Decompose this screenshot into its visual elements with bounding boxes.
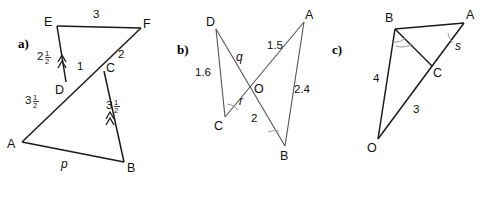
edge-label-a-ED: 2 1 2	[37, 49, 51, 66]
edge-label-a-AB: p	[60, 157, 68, 171]
edge-label-b-DC: 1.6	[195, 66, 211, 78]
vertex-label-c-B: B	[385, 11, 393, 25]
edge-label-c-CA: s	[455, 39, 461, 53]
edge-label-b-OA: 1.5	[267, 39, 283, 51]
vertex-label-a-E: E	[44, 15, 52, 29]
edge-label-c-OC: 3	[413, 103, 419, 115]
edge-label-a-CB: 3 1 2	[106, 98, 120, 115]
vertex-label-b-D: D	[206, 15, 215, 29]
edge-label-b-OB: 2	[251, 112, 257, 124]
vertex-label-a-F: F	[143, 17, 151, 31]
vertex-label-a-C: C	[106, 61, 115, 75]
vertex-label-c-A: A	[466, 8, 475, 22]
edge-label-a-DC: 1	[77, 60, 83, 72]
svg-text:3: 3	[106, 99, 112, 111]
vertex-label-b-C: C	[214, 119, 223, 133]
vertex-label-b-B: B	[280, 149, 288, 163]
edge-label-c-OB: 4	[373, 72, 380, 84]
vertex-label-b-A: A	[305, 8, 314, 22]
geometry-figure-sheet: a) b) c) E F C D A B 3 2 1 2 1 2 3 1 2 3	[0, 0, 488, 204]
edge-label-b-OC: r	[239, 94, 244, 108]
svg-text:2: 2	[37, 50, 43, 62]
frac-denominator-ED: 2	[45, 57, 49, 66]
edge-label-b-DO: q	[236, 50, 243, 64]
frac-denominator-AD: 2	[33, 101, 37, 110]
vertex-label-a-D: D	[55, 83, 64, 97]
frac-denominator-CB: 2	[114, 106, 118, 115]
vertex-label-c-O: O	[367, 141, 377, 155]
panel-label-b: b)	[177, 42, 189, 57]
edge-label-b-AB: 2.4	[294, 83, 311, 95]
vertex-label-a-B: B	[127, 161, 135, 175]
panel-label-c: c)	[332, 42, 342, 57]
edge-label-a-AD: 3 1 2	[25, 93, 39, 110]
svg-text:3: 3	[25, 94, 31, 106]
vertex-label-a-A: A	[7, 137, 16, 151]
edge-label-a-CF: 2	[118, 48, 124, 60]
figure-text-layer: a) b) c) E F C D A B 3 2 1 2 1 2 3 1 2 3	[0, 0, 488, 204]
panel-label-a: a)	[18, 36, 29, 51]
vertex-label-c-C: C	[433, 66, 442, 80]
edge-label-a-EF: 3	[93, 8, 99, 20]
vertex-label-b-O: O	[254, 82, 264, 96]
